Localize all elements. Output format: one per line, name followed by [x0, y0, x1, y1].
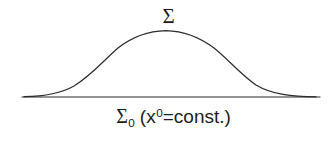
sigma-hypersurface-curve: [24, 31, 316, 97]
sigma-zero-baseline-label: Σ0(x0=const.): [0, 106, 335, 129]
sigma-zero-variable: x: [146, 106, 156, 127]
sigma-zero-subscript: 0: [128, 116, 135, 129]
sigma-zero-sigma-glyph: Σ: [116, 105, 128, 127]
sigma-zero-value: const.: [174, 106, 225, 127]
hypersurface-figure: Σ Σ0(x0=const.): [0, 0, 335, 141]
sigma-curve-label: Σ: [0, 6, 335, 27]
sigma-curve-label-text: Σ: [162, 6, 174, 27]
sigma-zero-equals: =: [163, 106, 174, 127]
sigma-zero-close-paren: ): [225, 106, 231, 127]
